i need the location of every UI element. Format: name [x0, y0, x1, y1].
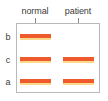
band-c-normal — [20, 57, 51, 63]
band-a-patient — [63, 79, 94, 85]
band-a-normal — [20, 79, 51, 85]
band-c-patient — [63, 57, 94, 63]
band-highlight — [20, 83, 51, 85]
column-header-patient: patient — [56, 6, 100, 17]
band-highlight — [20, 38, 51, 40]
gel-blot-figure: normal patient b c a — [0, 0, 108, 101]
row-label-b: b — [2, 32, 14, 42]
column-header-normal: normal — [13, 6, 57, 17]
band-highlight — [63, 83, 94, 85]
band-b-normal — [20, 34, 51, 40]
row-label-a: a — [2, 77, 14, 87]
row-label-c: c — [2, 55, 14, 65]
band-highlight — [20, 61, 51, 63]
band-highlight — [63, 61, 94, 63]
